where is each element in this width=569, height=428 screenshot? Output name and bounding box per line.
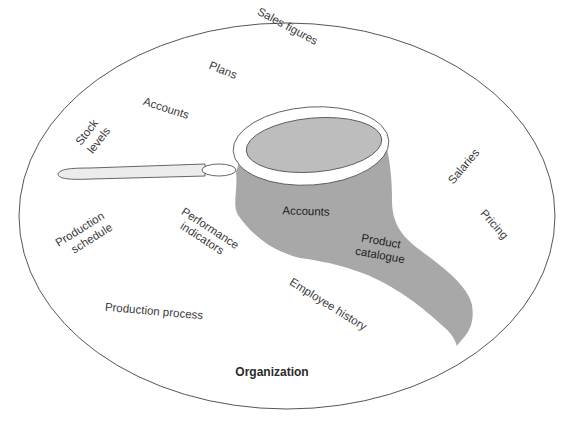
- organization-title: Organization: [230, 366, 314, 379]
- net-handle-collar: [202, 164, 236, 176]
- label-accounts-in-net: Accounts: [280, 204, 332, 219]
